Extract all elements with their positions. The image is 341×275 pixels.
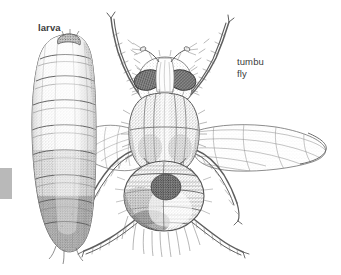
tumbu-fly-illustration-artwork <box>0 0 341 275</box>
frons-stripe <box>156 58 174 92</box>
abdomen-dark-spot <box>151 174 181 200</box>
label-larva: larva <box>38 22 61 34</box>
left-edge-gray-marker <box>0 168 12 199</box>
illustration-figure: larva tumbu fly <box>0 0 341 275</box>
label-tumbu-fly: tumbu fly <box>237 56 264 79</box>
